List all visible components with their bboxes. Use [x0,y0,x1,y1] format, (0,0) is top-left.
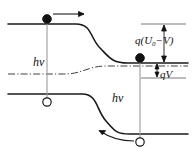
barrier-label-tail: −V) [156,34,174,46]
hole-bottom-left [43,98,51,106]
bias-label: qV [160,69,172,80]
electron-top-left [43,15,52,24]
photon-label-right: hν [112,92,123,104]
electron-drift-arrow [53,11,84,16]
electron-mid-right [136,54,145,63]
photon-label-left: hν [33,56,44,68]
barrier-label-head: q(U [135,34,152,46]
band-diagram-figure: hν hν q(U0−V) qV [0,0,193,156]
valence-band-curve [8,94,188,134]
hole-bottom-right [136,138,144,146]
barrier-label: q(U0−V) [135,35,173,48]
